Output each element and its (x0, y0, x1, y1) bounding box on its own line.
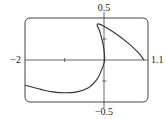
y-max-label: 0.5 (98, 2, 111, 13)
curve (25, 24, 144, 93)
x-max-label: 1.1 (151, 54, 164, 65)
x-min-label: −2 (10, 54, 21, 65)
chart: 0.5 −0.5 −2 1.1 (0, 0, 166, 119)
y-min-label: −0.5 (95, 106, 113, 117)
